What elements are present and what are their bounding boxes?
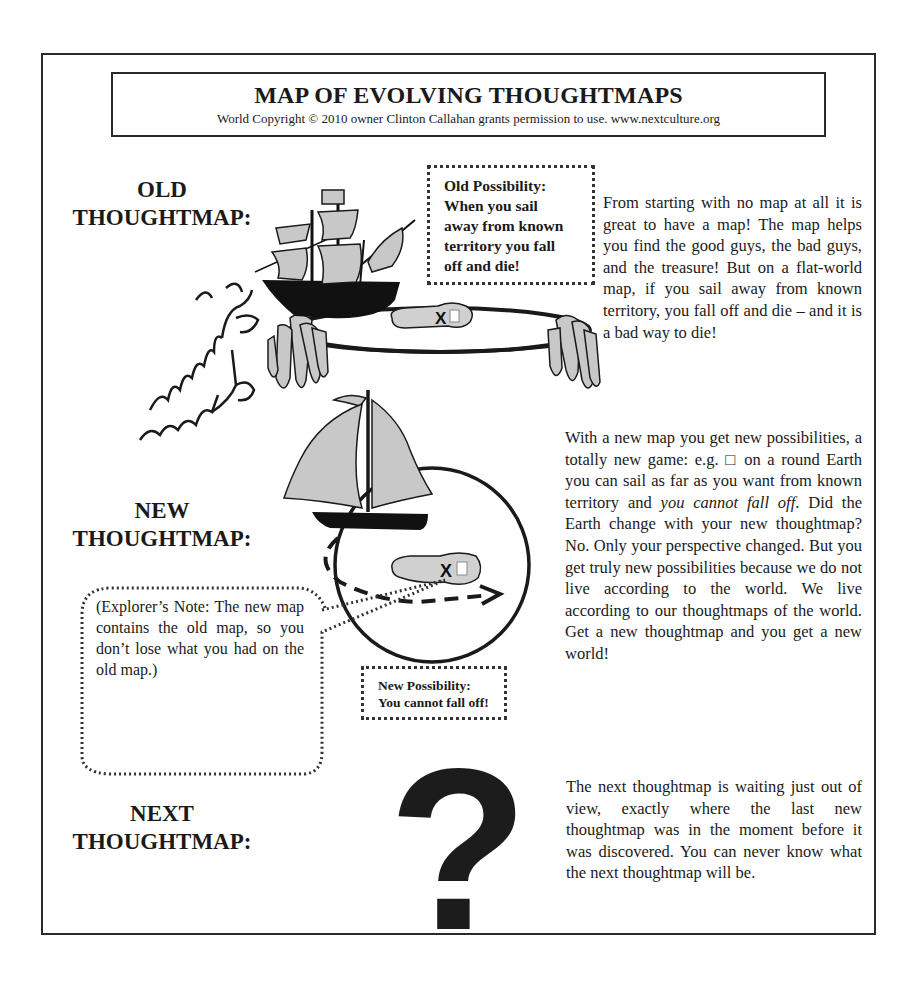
page-title: MAP OF EVOLVING THOUGHTMAPS: [113, 82, 824, 108]
callout-line: When you sail: [444, 196, 582, 216]
old-thoughtmap-label: OLD THOUGHTMAP:: [62, 176, 262, 232]
callout-heading: New Possibility:: [378, 677, 498, 694]
next-thoughtmap-label: NEXT THOUGHTMAP:: [62, 800, 262, 856]
new-label-line1: NEW: [62, 497, 262, 525]
next-label-line1: NEXT: [62, 800, 262, 828]
explorer-note: (Explorer’s Note: The new map contains t…: [96, 596, 304, 680]
old-description: From starting with no map at all it is g…: [603, 192, 862, 343]
copyright-notice: World Copyright © 2010 owner Clinton Cal…: [113, 111, 824, 126]
old-possibility-callout: Old Possibility: When you sail away from…: [427, 165, 595, 285]
new-description-emphasis: you cannot fall off: [661, 493, 796, 512]
next-label-line2: THOUGHTMAP:: [62, 828, 262, 856]
callout-line: You cannot fall off!: [378, 694, 498, 711]
next-description: The next thoughtmap is waiting just out …: [566, 776, 862, 884]
new-description: With a new map you get new possibilities…: [565, 427, 862, 665]
callout-line: territory you fall: [444, 236, 582, 256]
title-box: MAP OF EVOLVING THOUGHTMAPS World Copyri…: [111, 72, 826, 137]
new-description-text-cont: . Did the Earth change with your new tho…: [565, 493, 862, 663]
new-label-line2: THOUGHTMAP:: [62, 525, 262, 553]
new-thoughtmap-label: NEW THOUGHTMAP:: [62, 497, 262, 553]
old-label-line2: THOUGHTMAP:: [62, 204, 262, 232]
callout-line: off and die!: [444, 256, 582, 276]
question-mark-icon: ?: [388, 755, 529, 945]
old-label-line1: OLD: [62, 176, 262, 204]
callout-line: away from known: [444, 216, 582, 236]
new-possibility-callout: New Possibility: You cannot fall off!: [361, 666, 507, 720]
callout-heading: Old Possibility:: [444, 176, 582, 196]
